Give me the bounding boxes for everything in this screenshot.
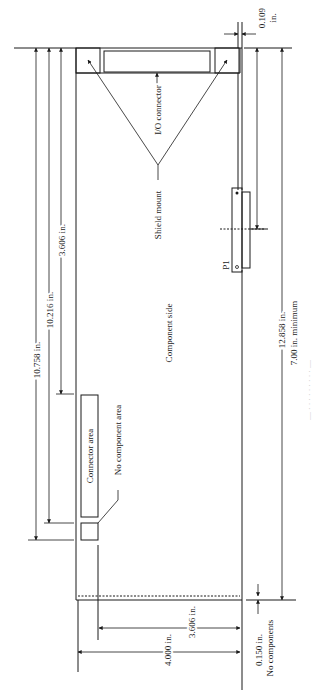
- label-component-side: Component side: [164, 304, 174, 363]
- label-0-109-unit: in.: [268, 13, 278, 22]
- label-10-216: 10.216 in.: [45, 292, 55, 328]
- board-outline-diagram: 10.758 in. 10.216 in. 3.606 in. I/O conn…: [0, 0, 316, 690]
- label-4-000: 4.000 in.: [163, 634, 173, 666]
- label-p1: P1: [221, 260, 231, 270]
- label-7-00-min: 7.00 in. minimum: [289, 301, 299, 366]
- io-connector-rect: [104, 51, 210, 72]
- figure-caption: — · · · · · · · · · —: [305, 359, 314, 421]
- label-connector-area: Connector area: [85, 429, 95, 484]
- label-no-component-area: No component area: [113, 405, 123, 475]
- label-10-758: 10.758 in.: [32, 342, 42, 378]
- label-no-components: No components: [265, 619, 275, 676]
- right-dimensions: [224, 34, 282, 614]
- bottom-dimensions: [78, 600, 240, 672]
- label-3-606-top: 3.606 in.: [57, 224, 67, 256]
- no-component-area-rect: [81, 523, 98, 540]
- label-shield-mount: Shield mount: [153, 190, 163, 239]
- label-0-150: 0.150 in.: [254, 634, 264, 666]
- label-io-connector: I/O connector: [153, 85, 163, 135]
- label-3-606-bottom: 3.606 in.: [187, 606, 197, 638]
- p1-connector: [220, 188, 268, 272]
- label-12-858: 12.858 in.: [277, 312, 287, 348]
- label-0-109: 0.109: [257, 7, 267, 28]
